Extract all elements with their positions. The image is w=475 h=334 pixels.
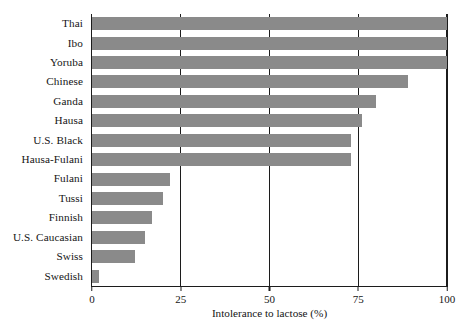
category-label: Fulani bbox=[0, 169, 88, 188]
category-label: Yoruba bbox=[0, 53, 88, 72]
value-tick-100: 100 bbox=[439, 286, 456, 305]
bar-row bbox=[92, 150, 447, 169]
bar bbox=[92, 95, 376, 108]
value-tick-75: 75 bbox=[353, 286, 364, 305]
bar-row bbox=[92, 92, 447, 111]
category-label: Hausa bbox=[0, 111, 88, 130]
tick-label: 75 bbox=[353, 294, 364, 305]
plot-area bbox=[92, 14, 447, 286]
tick-mark bbox=[91, 286, 92, 291]
bar bbox=[92, 231, 145, 244]
value-tick-25: 25 bbox=[175, 286, 186, 305]
tick-mark bbox=[446, 286, 447, 291]
bar bbox=[92, 153, 351, 166]
lactose-intolerance-bar-chart: ThaiIboYorubaChineseGandaHausaU.S. Black… bbox=[0, 0, 475, 334]
category-label: Tussi bbox=[0, 189, 88, 208]
tick-mark bbox=[269, 286, 270, 291]
bar-row bbox=[92, 228, 447, 247]
tick-mark bbox=[358, 286, 359, 291]
bar-row bbox=[92, 111, 447, 130]
value-axis-ticks: 0255075100 bbox=[92, 286, 447, 306]
bar bbox=[92, 134, 351, 147]
category-label: Hausa-Fulani bbox=[0, 150, 88, 169]
bar bbox=[92, 75, 408, 88]
value-tick-0: 0 bbox=[89, 286, 95, 305]
category-label: Chinese bbox=[0, 72, 88, 91]
tick-label: 25 bbox=[175, 294, 186, 305]
bar-row bbox=[92, 189, 447, 208]
bar-row bbox=[92, 131, 447, 150]
tick-label: 100 bbox=[439, 294, 456, 305]
bar-series bbox=[92, 14, 447, 286]
category-label: Swiss bbox=[0, 247, 88, 266]
tick-label: 50 bbox=[264, 294, 275, 305]
category-label: Finnish bbox=[0, 208, 88, 227]
category-label: U.S. Caucasian bbox=[0, 228, 88, 247]
category-axis-labels: ThaiIboYorubaChineseGandaHausaU.S. Black… bbox=[0, 14, 88, 286]
category-label: Ganda bbox=[0, 92, 88, 111]
bar-row bbox=[92, 33, 447, 52]
tick-mark bbox=[180, 286, 181, 291]
bar bbox=[92, 192, 163, 205]
bar-row bbox=[92, 169, 447, 188]
bar-row bbox=[92, 208, 447, 227]
bar bbox=[92, 211, 152, 224]
bar bbox=[92, 270, 99, 283]
bar bbox=[92, 56, 447, 69]
bar bbox=[92, 37, 447, 50]
category-label: Ibo bbox=[0, 33, 88, 52]
category-label: Thai bbox=[0, 14, 88, 33]
bar bbox=[92, 250, 135, 263]
bar-row bbox=[92, 72, 447, 91]
bar-row bbox=[92, 266, 447, 285]
category-label: Swedish bbox=[0, 266, 88, 285]
value-tick-50: 50 bbox=[264, 286, 275, 305]
bar-row bbox=[92, 14, 447, 33]
bar bbox=[92, 173, 170, 186]
x-axis-title: Intolerance to lactose (%) bbox=[92, 308, 447, 319]
bar bbox=[92, 114, 362, 127]
bar bbox=[92, 17, 447, 30]
category-label: U.S. Black bbox=[0, 131, 88, 150]
bar-row bbox=[92, 53, 447, 72]
bar-row bbox=[92, 247, 447, 266]
tick-label: 0 bbox=[89, 294, 95, 305]
